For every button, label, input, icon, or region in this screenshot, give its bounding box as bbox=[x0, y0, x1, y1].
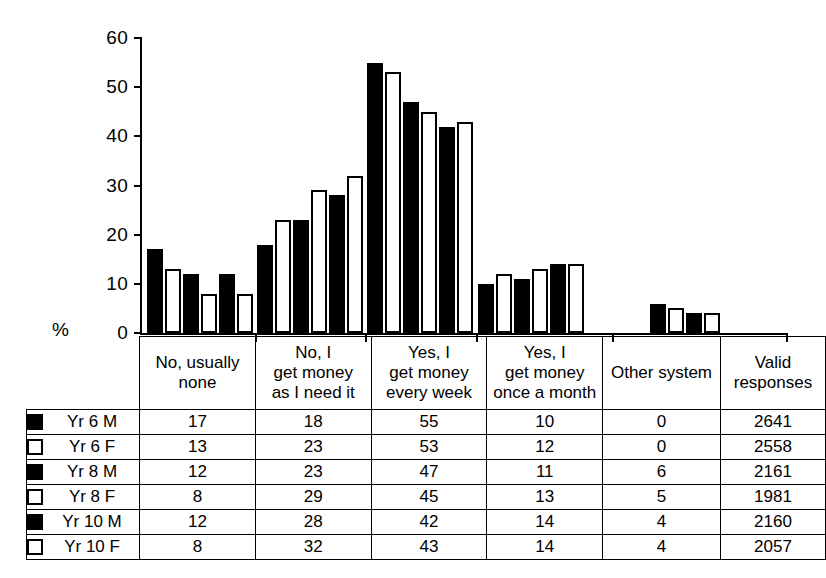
table-cell-r5-c1: 32 bbox=[255, 535, 371, 560]
legend-swatch-icon bbox=[27, 539, 43, 555]
legend-inner: Yr 8 M bbox=[27, 462, 139, 482]
bar-yr-8-m-g1 bbox=[293, 220, 309, 333]
legend-label: Yr 10 F bbox=[49, 537, 139, 557]
table-header-1: No, usuallynone bbox=[140, 337, 256, 410]
table-header-line: get money bbox=[487, 363, 602, 383]
table-header-line: Yes, I bbox=[487, 343, 602, 363]
table-cell-r3-c0: 8 bbox=[140, 485, 256, 510]
legend-cell-yr-10-m: Yr 10 M bbox=[27, 510, 140, 535]
table-header-line: Valid bbox=[721, 353, 825, 373]
table-header-line: Yes, I bbox=[372, 343, 487, 363]
table-cell-r4-c5: 2160 bbox=[720, 510, 825, 535]
table-cell-r3-c5: 1981 bbox=[720, 485, 825, 510]
bar-yr-8-f-g1 bbox=[311, 190, 327, 333]
table-cell-r0-c5: 2641 bbox=[720, 410, 825, 435]
table-row: Yr 10 F832431442057 bbox=[27, 535, 826, 560]
table-header-line: as I need it bbox=[256, 383, 371, 403]
table-cell-r5-c5: 2057 bbox=[720, 535, 825, 560]
bar-yr-8-f-g4 bbox=[668, 308, 684, 333]
table-cell-r1-c2: 53 bbox=[371, 435, 487, 460]
table-cell-r1-c4: 0 bbox=[603, 435, 721, 460]
table-cell-r3-c3: 13 bbox=[487, 485, 603, 510]
table-row: Yr 8 F829451351981 bbox=[27, 485, 826, 510]
legend-label: Yr 8 F bbox=[49, 487, 139, 507]
legend-cell-yr-8-m: Yr 8 M bbox=[27, 460, 140, 485]
legend-label: Yr 6 M bbox=[49, 412, 139, 432]
bar-yr-8-f-g2 bbox=[421, 112, 437, 333]
table-cell-r4-c4: 4 bbox=[603, 510, 721, 535]
table-header-line: No, usually bbox=[140, 353, 255, 373]
legend-inner: Yr 8 F bbox=[27, 487, 139, 507]
table-header-line: No, I bbox=[256, 343, 371, 363]
table-cell-r0-c2: 55 bbox=[371, 410, 487, 435]
table-cell-r4-c1: 28 bbox=[255, 510, 371, 535]
bar-yr-6-f-g3 bbox=[496, 274, 512, 333]
table-cell-r1-c0: 13 bbox=[140, 435, 256, 460]
table-header-line: get money bbox=[372, 363, 487, 383]
table-cell-r5-c4: 4 bbox=[603, 535, 721, 560]
table-header-line: once a month bbox=[487, 383, 602, 403]
bar-yr-6-f-g1 bbox=[275, 220, 291, 333]
table-cell-r0-c3: 10 bbox=[487, 410, 603, 435]
table-cell-r2-c4: 6 bbox=[603, 460, 721, 485]
legend-cell-yr-8-f: Yr 8 F bbox=[27, 485, 140, 510]
legend-swatch-icon bbox=[27, 414, 43, 430]
bar-yr-8-m-g4 bbox=[650, 304, 666, 334]
bars-layer bbox=[0, 38, 826, 333]
table-cell-r1-c1: 23 bbox=[255, 435, 371, 460]
table-cell-r2-c0: 12 bbox=[140, 460, 256, 485]
bar-yr-8-f-g0 bbox=[201, 294, 217, 333]
table-cell-r4-c2: 42 bbox=[371, 510, 487, 535]
bar-yr-10-m-g1 bbox=[329, 195, 345, 333]
legend-inner: Yr 10 F bbox=[27, 537, 139, 557]
bar-yr-6-m-g1 bbox=[257, 245, 273, 334]
table-cell-r2-c3: 11 bbox=[487, 460, 603, 485]
legend-inner: Yr 6 M bbox=[27, 412, 139, 432]
table-cell-r5-c2: 43 bbox=[371, 535, 487, 560]
data-table: No, usuallynoneNo, Iget moneyas I need i… bbox=[26, 336, 826, 560]
legend-label: Yr 10 M bbox=[49, 512, 139, 532]
legend-cell-yr-6-f: Yr 6 F bbox=[27, 435, 140, 460]
table-cell-r4-c0: 12 bbox=[140, 510, 256, 535]
table-cell-r5-c3: 14 bbox=[487, 535, 603, 560]
bar-yr-10-f-g3 bbox=[568, 264, 584, 333]
bar-yr-10-m-g0 bbox=[219, 274, 235, 333]
table-cell-r1-c5: 2558 bbox=[720, 435, 825, 460]
table-header-legend-spacer bbox=[27, 337, 140, 410]
table-cell-r5-c0: 8 bbox=[140, 535, 256, 560]
table-cell-r3-c1: 29 bbox=[255, 485, 371, 510]
legend-label: Yr 6 F bbox=[49, 437, 139, 457]
table-row: Yr 6 F1323531202558 bbox=[27, 435, 826, 460]
bar-yr-8-m-g2 bbox=[403, 102, 419, 333]
bar-yr-6-f-g2 bbox=[385, 72, 401, 333]
legend-swatch-icon bbox=[27, 439, 43, 455]
table-header-line: responses bbox=[721, 373, 825, 393]
table-header-line: get money bbox=[256, 363, 371, 383]
bar-yr-10-m-g2 bbox=[439, 127, 455, 334]
table-header-3: Yes, Iget moneyevery week bbox=[371, 337, 487, 410]
bar-yr-6-m-g0 bbox=[147, 249, 163, 333]
legend-inner: Yr 10 M bbox=[27, 512, 139, 532]
legend-cell-yr-10-f: Yr 10 F bbox=[27, 535, 140, 560]
table-cell-r3-c4: 5 bbox=[603, 485, 721, 510]
table-cell-r4-c3: 14 bbox=[487, 510, 603, 535]
pocket-money-figure: % 6050403020100 No, usuallynoneNo, Iget … bbox=[0, 0, 826, 578]
table-row: Yr 10 M1228421442160 bbox=[27, 510, 826, 535]
table-header-line: Other system bbox=[603, 363, 720, 383]
table-header-4: Yes, Iget moneyonce a month bbox=[487, 337, 603, 410]
bar-yr-6-f-g0 bbox=[165, 269, 181, 333]
table-header-line: none bbox=[140, 373, 255, 393]
bar-yr-10-f-g4 bbox=[704, 313, 720, 333]
table-cell-r2-c5: 2161 bbox=[720, 460, 825, 485]
bar-yr-10-m-g4 bbox=[686, 313, 702, 333]
table-row: Yr 6 M1718551002641 bbox=[27, 410, 826, 435]
bar-chart: % 6050403020100 bbox=[0, 0, 826, 340]
table-cell-r1-c3: 12 bbox=[487, 435, 603, 460]
bar-yr-10-m-g3 bbox=[550, 264, 566, 333]
table-cell-r0-c0: 17 bbox=[140, 410, 256, 435]
legend-swatch-icon bbox=[27, 489, 43, 505]
legend-swatch-icon bbox=[27, 464, 43, 480]
bar-yr-8-m-g0 bbox=[183, 274, 199, 333]
table-cell-r2-c2: 47 bbox=[371, 460, 487, 485]
table-cell-r0-c1: 18 bbox=[255, 410, 371, 435]
